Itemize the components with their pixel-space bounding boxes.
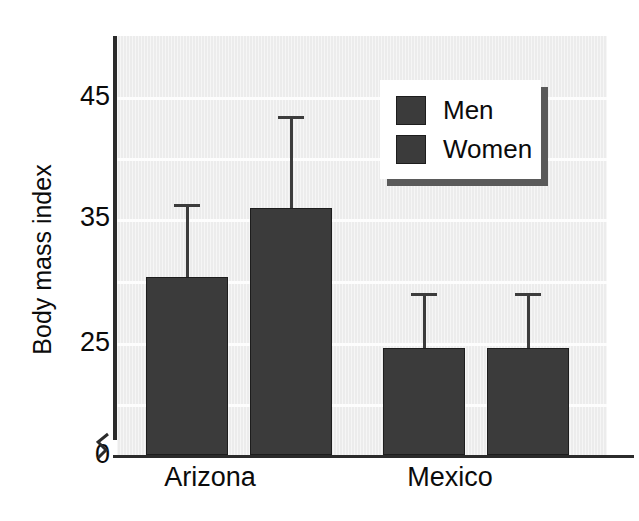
- y-tick-35: 35: [44, 204, 110, 231]
- legend-swatch-women: [396, 135, 426, 164]
- bar-arizona-women: [250, 208, 332, 455]
- y-tick-25: 25: [44, 329, 110, 356]
- legend-swatch-men: [396, 96, 426, 125]
- x-tick-arizona: Arizona: [120, 462, 300, 493]
- y-tick-45: 45: [44, 83, 110, 110]
- x-axis-line: [113, 455, 634, 458]
- errorbar-cap-arizona-women: [278, 116, 304, 119]
- bar-chart-figure: Body mass index 45 35 25 0: [0, 0, 639, 521]
- gridline-35: [117, 219, 607, 222]
- legend-label-men: Men: [443, 97, 494, 123]
- legend: Men Women: [380, 80, 541, 179]
- errorbar-cap-mexico-men: [411, 293, 437, 296]
- y-axis-line: [113, 36, 117, 440]
- bar-mexico-men: [383, 348, 465, 455]
- bar-mexico-women: [487, 348, 569, 455]
- bar-arizona-men: [146, 277, 228, 455]
- errorbar-cap-arizona-men: [174, 204, 200, 207]
- errorbar-line-arizona-men: [186, 204, 189, 277]
- errorbar-line-mexico-women: [527, 293, 530, 348]
- errorbar-line-arizona-women: [290, 116, 293, 208]
- errorbar-line-mexico-men: [423, 293, 426, 348]
- legend-label-women: Women: [443, 136, 532, 162]
- axis-break-icon: [96, 432, 122, 462]
- x-tick-mexico: Mexico: [360, 462, 540, 493]
- errorbar-cap-mexico-women: [515, 293, 541, 296]
- legend-entry-women: Women: [396, 132, 532, 166]
- legend-entry-men: Men: [396, 93, 494, 127]
